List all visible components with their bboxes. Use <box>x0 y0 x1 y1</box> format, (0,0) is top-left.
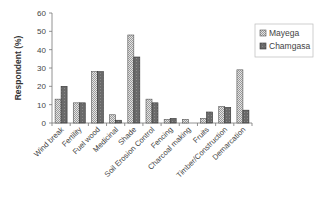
bar-chamgasa <box>79 103 85 123</box>
y-tick-label: 0 <box>42 119 47 128</box>
category-labels: Wind breakFertilityFuel woodMedicinalSha… <box>32 125 247 180</box>
legend-swatch-chamgasa <box>260 43 266 49</box>
bars <box>55 35 249 123</box>
legend-swatch-mayega <box>260 30 266 36</box>
bar-chamgasa <box>243 110 249 123</box>
bar-chamgasa <box>207 112 213 123</box>
y-axis: 0102030405060 <box>37 9 52 128</box>
bar-chamgasa <box>225 107 231 123</box>
y-tick-label: 50 <box>37 27 46 36</box>
bar-chamgasa <box>116 120 122 123</box>
y-tick-label: 60 <box>37 9 46 18</box>
y-tick-label: 10 <box>37 101 46 110</box>
bar-mayega <box>55 99 61 123</box>
bar-mayega <box>219 107 225 124</box>
bar-chamgasa <box>134 57 140 123</box>
bar-mayega <box>73 103 79 123</box>
y-tick-label: 40 <box>37 46 46 55</box>
bar-mayega <box>201 118 207 123</box>
bar-mayega <box>237 70 243 123</box>
bar-mayega <box>128 35 134 123</box>
bar-mayega <box>91 72 97 123</box>
bar-mayega <box>182 119 188 123</box>
bar-chamgasa <box>61 86 67 123</box>
bar-mayega <box>164 119 170 123</box>
y-tick-label: 20 <box>37 82 46 91</box>
bar-chart: 0102030405060 Wind breakFertilityFuel wo… <box>0 0 317 197</box>
y-axis-title: Respondent (%) <box>13 35 23 100</box>
bar-mayega <box>146 99 152 123</box>
bar-chamgasa <box>170 118 176 123</box>
bar-mayega <box>110 115 116 123</box>
y-tick-label: 30 <box>37 64 46 73</box>
legend-label-chamgasa: Chamgasa <box>269 41 310 51</box>
bar-chamgasa <box>97 72 103 123</box>
bar-chamgasa <box>152 103 158 123</box>
legend-label-mayega: Mayega <box>269 28 300 38</box>
legend: MayegaChamgasa <box>255 24 313 57</box>
